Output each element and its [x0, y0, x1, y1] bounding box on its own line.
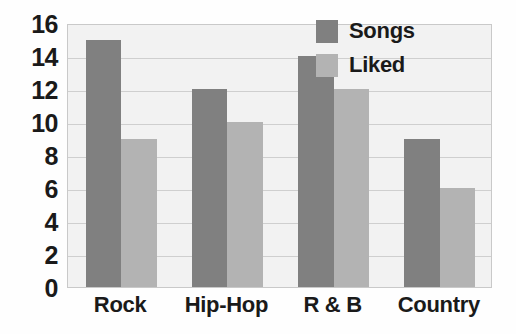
plot-area	[67, 24, 492, 288]
bar-liked-rock[interactable]	[121, 139, 157, 288]
y-tick-label: 10	[0, 111, 58, 136]
bar-songs-hip-hop[interactable]	[192, 89, 228, 287]
y-tick-label: 6	[0, 177, 58, 202]
legend-item-label: Liked	[349, 54, 405, 76]
y-tick-label: 16	[0, 12, 58, 37]
y-axis: 1614121086420	[0, 24, 58, 288]
x-axis-label-hip-hop: Hip-Hop	[173, 292, 279, 318]
legend-item-label: Songs	[349, 20, 415, 42]
bars-layer	[68, 25, 491, 287]
bar-chart: 1614121086420 SongsLiked RockHip-HopR & …	[0, 0, 516, 334]
bar-group	[174, 25, 280, 287]
bar-liked-r-b[interactable]	[334, 89, 370, 287]
bar-group	[68, 25, 174, 287]
chart-legend: SongsLiked	[316, 14, 424, 82]
bar-liked-country[interactable]	[440, 188, 476, 287]
legend-swatch-icon	[316, 20, 338, 43]
x-axis-label-rock: Rock	[67, 292, 173, 318]
y-tick-label: 12	[0, 78, 58, 103]
y-tick-label: 8	[0, 144, 58, 169]
y-tick-label: 14	[0, 45, 58, 70]
y-tick-label: 2	[0, 243, 58, 268]
x-axis: RockHip-HopR & BCountry	[67, 292, 492, 326]
legend-item-liked[interactable]: Liked	[316, 48, 424, 82]
x-axis-label-r-b: R & B	[280, 292, 386, 318]
legend-swatch-icon	[316, 54, 338, 77]
bar-songs-r-b[interactable]	[298, 56, 334, 287]
x-axis-label-country: Country	[386, 292, 492, 318]
y-tick-label: 0	[0, 276, 58, 301]
bar-songs-country[interactable]	[404, 139, 440, 288]
y-tick-label: 4	[0, 210, 58, 235]
legend-item-songs[interactable]: Songs	[316, 14, 424, 48]
bar-liked-hip-hop[interactable]	[227, 122, 263, 287]
bar-songs-rock[interactable]	[86, 40, 122, 288]
